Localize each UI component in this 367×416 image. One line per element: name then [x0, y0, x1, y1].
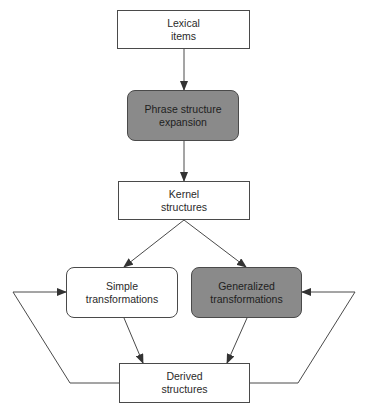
edge-kernel-to-generalized [184, 220, 246, 267]
node-label-line1: Generalized [218, 280, 275, 293]
node-label-line2: structures [161, 383, 207, 396]
edge-generalized-to-derived [227, 318, 247, 363]
edge-kernel-to-simple [124, 220, 184, 267]
node-label-line1: Simple [106, 280, 138, 293]
node-kernel-structures: Kernel structures [118, 181, 250, 220]
node-label-line1: Lexical [167, 17, 200, 30]
node-derived-structures: Derived structures [119, 363, 250, 403]
node-generalized-transformations: Generalized transformations [191, 267, 302, 318]
node-phrase-structure-expansion: Phrase structure expansion [127, 90, 239, 141]
node-label-line1: Phrase structure [144, 103, 221, 116]
node-label-line1: Kernel [169, 188, 199, 201]
node-simple-transformations: Simple transformations [66, 267, 178, 318]
node-label-line1: Derived [166, 370, 202, 383]
node-lexical-items: Lexical items [117, 10, 250, 49]
node-label-line2: expansion [159, 116, 207, 129]
node-label-line2: items [171, 30, 196, 43]
node-label-line2: structures [161, 201, 207, 214]
node-label-line2: transformations [86, 293, 158, 306]
node-label-line2: transformations [210, 293, 282, 306]
edge-simple-to-derived [124, 318, 143, 363]
